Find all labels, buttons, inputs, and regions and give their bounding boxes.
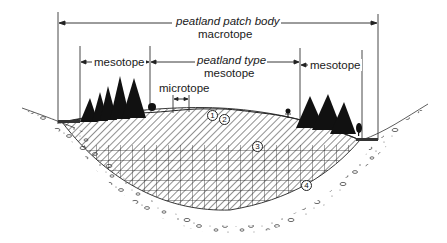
forest-left-icon [80, 76, 156, 122]
mesotope-right-label: mesotope [309, 59, 362, 71]
peatland-cross-section-diagram: peatland patch body macrotope mesotope p… [0, 0, 447, 243]
layer-marker-2: 2 [219, 114, 230, 125]
mesotope-center-subtitle: mesotope [203, 67, 256, 79]
mesotope-center-title: peatland type [196, 54, 267, 66]
layer-marker-4: 4 [301, 180, 312, 191]
layer-marker-1: 1 [207, 110, 218, 121]
mesotope-left-label: mesotope [93, 56, 146, 68]
layer-marker-3: 3 [252, 141, 263, 152]
macrotope-subtitle: macrotope [197, 28, 253, 40]
macrotope-title: peatland patch body [175, 15, 281, 27]
microtope-label: microtope [158, 82, 211, 94]
